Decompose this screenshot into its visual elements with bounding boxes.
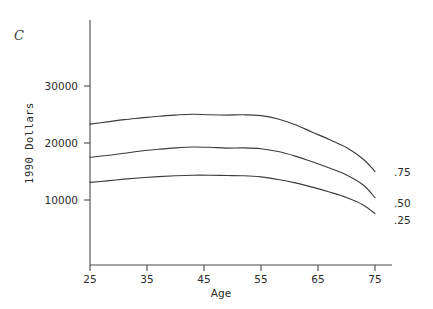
y-tick-label-20000: 20000 (45, 137, 78, 149)
panel-label: C (14, 28, 24, 43)
x-axis-title: Age (211, 287, 231, 299)
x-tick-label-75: 75 (368, 273, 381, 285)
x-tick-label-65: 65 (311, 273, 324, 285)
x-tick-label-45: 45 (197, 273, 210, 285)
y-axis-title: 1990 Dollars (23, 102, 35, 184)
y-tick-label-10000: 10000 (45, 194, 78, 206)
x-tick-label-55: 55 (254, 273, 267, 285)
x-tick-label-25: 25 (83, 273, 96, 285)
curve-label-q25: .25 (394, 214, 411, 226)
curve-label-q50: .50 (394, 197, 411, 209)
x-tick-label-35: 35 (140, 273, 153, 285)
curve-label-q75: .75 (394, 166, 411, 178)
quantile-regression-chart: C 30000 20000 10000 1990 Dollars 25 35 4… (0, 0, 433, 309)
chart-background (0, 0, 433, 309)
y-tick-label-30000: 30000 (45, 80, 78, 92)
chart-figure: C 30000 20000 10000 1990 Dollars 25 35 4… (0, 0, 433, 309)
